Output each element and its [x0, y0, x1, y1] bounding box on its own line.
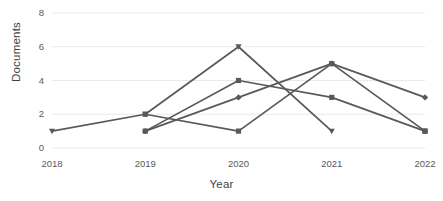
x-tick-label: 2022 — [395, 158, 443, 169]
data-point-marker — [236, 78, 241, 83]
data-point-marker — [235, 94, 241, 100]
series-4 — [143, 61, 428, 134]
chart-plot-area — [0, 0, 443, 201]
x-tick-label: 2019 — [115, 158, 175, 169]
data-point-marker — [329, 61, 334, 66]
series-line — [145, 64, 425, 132]
y-axis-title-text: Documents — [10, 22, 22, 82]
y-tick-label: 4 — [22, 75, 44, 86]
series-lines — [49, 44, 428, 134]
x-axis-title: Year — [0, 178, 443, 190]
y-tick-label: 0 — [22, 142, 44, 153]
x-tick-label: 2021 — [302, 158, 362, 169]
line-chart: Documents Year 02468 2018201920202021202… — [0, 0, 443, 201]
y-axis-title: Documents — [6, 16, 22, 88]
data-point-marker — [329, 95, 334, 100]
data-point-marker — [422, 129, 427, 134]
series-1 — [49, 44, 335, 134]
x-tick-label: 2020 — [209, 158, 269, 169]
y-tick-label: 2 — [22, 108, 44, 119]
data-point-marker — [143, 112, 148, 117]
data-point-marker — [422, 94, 428, 100]
x-tick-label: 2018 — [22, 158, 82, 169]
data-point-marker — [236, 129, 241, 134]
y-tick-label: 8 — [22, 7, 44, 18]
y-tick-label: 6 — [22, 41, 44, 52]
series-line — [145, 81, 425, 132]
data-point-marker — [329, 129, 335, 134]
series-2 — [143, 78, 428, 134]
